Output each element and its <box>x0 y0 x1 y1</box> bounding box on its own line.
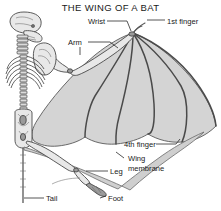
scapula-group <box>33 43 56 75</box>
elbow-joint <box>67 69 72 73</box>
scapula-bone <box>33 43 56 75</box>
label-fourth-finger: 4th finger <box>124 140 156 149</box>
cervical-vertebrae-group <box>17 35 28 54</box>
wrist-carpal-bones <box>129 32 135 36</box>
skull-cranium <box>10 12 41 33</box>
bat-anatomy-illustration: THE WING OF A BAT <box>0 0 221 211</box>
spine-group <box>20 55 27 110</box>
leader-wing-membrane <box>116 152 124 158</box>
label-foot: Foot <box>108 194 124 203</box>
bat-wing-anatomy-figure: THE WING OF A BAT <box>0 0 221 211</box>
label-wrist: Wrist <box>88 17 106 26</box>
figure-title: THE WING OF A BAT <box>62 2 160 13</box>
hip-socket <box>20 134 25 141</box>
label-leg: Leg <box>110 167 123 176</box>
pelvic-cavity <box>20 116 26 125</box>
label-wing-membrane-line1: Wing <box>128 154 145 163</box>
label-first-finger: 1st finger <box>167 17 199 26</box>
vertebra <box>17 47 28 50</box>
skull-eye-socket <box>31 24 34 27</box>
label-arm: Arm <box>68 38 82 47</box>
vertebra <box>17 43 28 46</box>
leader-wrist <box>107 21 131 31</box>
knee-joint <box>74 168 79 172</box>
vertebra <box>17 39 28 42</box>
label-wing-membrane-line2: membrane <box>128 164 164 173</box>
vertebra <box>17 35 28 38</box>
label-tail: Tail <box>46 194 58 203</box>
vertebra <box>17 51 28 54</box>
